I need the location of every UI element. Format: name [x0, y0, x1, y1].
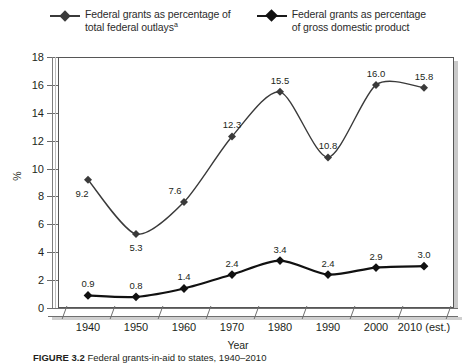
data-point-label: 16.0	[367, 67, 386, 78]
x-tick-label: 1990	[316, 321, 340, 333]
x-axis-shadow	[52, 317, 462, 320]
figure-caption: FIGURE 3.2 Federal grants-in-aid to stat…	[33, 352, 473, 364]
y-tick-label: 12	[32, 135, 44, 147]
y-tick-label: 2	[38, 274, 44, 286]
x-tick-label: 1960	[172, 321, 196, 333]
data-point-label: 15.5	[271, 74, 290, 85]
y-tick-label: 4	[38, 246, 44, 258]
x-tick-label: 2000	[364, 321, 388, 333]
y-axis-title: %	[11, 171, 23, 180]
data-point-label: 3.0	[417, 249, 430, 260]
x-tick-label: 1940	[76, 321, 100, 333]
data-point-label: 3.4	[273, 243, 286, 254]
legend-entry-federal-outlays: Federal grants as percentage of total fe…	[50, 8, 231, 34]
data-point-label: 5.3	[129, 242, 142, 253]
data-point-label: 2.9	[369, 250, 382, 261]
diamond-line-marker-icon	[50, 9, 80, 23]
x-axis-title: Year	[0, 339, 476, 351]
data-point-label: 2.4	[225, 257, 238, 268]
figure-caption-text: Federal grants-in-aid to states, 1940–20…	[87, 352, 266, 363]
legend-label-gdp: Federal grants as percentage of gross do…	[292, 8, 426, 34]
y-tick-label: 18	[32, 51, 44, 63]
y-tick-label: 8	[38, 190, 44, 202]
data-point-label: 7.6	[168, 185, 181, 196]
y-axis-line-inner	[55, 57, 56, 308]
x-tick-label: 1980	[268, 321, 292, 333]
legend-superscript-a: a	[174, 21, 178, 28]
data-point-label: 2.4	[321, 257, 334, 268]
legend-entry-gdp: Federal grants as percentage of gross do…	[257, 8, 426, 34]
legend-label-federal-outlays: Federal grants as percentage of total fe…	[85, 8, 231, 34]
data-point-label: 12.3	[223, 119, 242, 130]
x-tick-label: 1950	[124, 321, 148, 333]
y-axis: 024681012141618	[0, 50, 58, 315]
data-point-label: 0.8	[129, 279, 142, 290]
diamond-line-marker-icon	[257, 9, 287, 23]
chart-area: 024681012141618 % 9.25.37.612.315.510.81…	[0, 50, 476, 320]
data-point-labels: 9.25.37.612.315.510.816.015.80.90.81.42.…	[58, 57, 454, 308]
chart-legend: Federal grants as percentage of total fe…	[0, 8, 476, 34]
y-tick-label: 6	[38, 218, 44, 230]
data-point-label: 9.2	[75, 187, 88, 198]
y-tick-label: 10	[32, 163, 44, 175]
figure-number: FIGURE 3.2	[33, 352, 85, 363]
data-point-label: 15.8	[415, 70, 434, 81]
y-tick-label: 16	[32, 79, 44, 91]
data-point-label: 1.4	[177, 271, 190, 282]
x-tick-label: 2010 (est.)	[398, 321, 451, 333]
data-point-label: 0.9	[81, 278, 94, 289]
x-axis: 19401950196019701980199020002010 (est.) …	[0, 308, 476, 348]
y-axis-line	[52, 57, 53, 308]
y-tick-label: 14	[32, 107, 44, 119]
x-tick-label: 1970	[220, 321, 244, 333]
data-point-label: 10.8	[319, 140, 338, 151]
